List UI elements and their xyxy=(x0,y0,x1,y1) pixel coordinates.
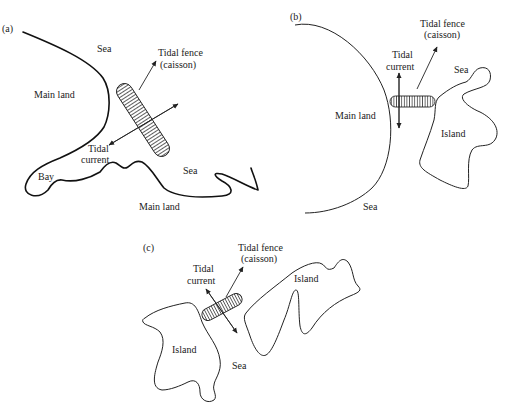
panel-a-fence-label-2: (caisson) xyxy=(160,59,196,71)
panel-b-fence-pointer-arrow xyxy=(417,47,437,89)
panel-c-caisson xyxy=(200,291,244,322)
panel-a: (a) Sea Main land Tidal fence (caisson) … xyxy=(2,23,258,212)
panel-a-sea-top: Sea xyxy=(97,43,112,54)
panel-a-current-label-2: current xyxy=(81,154,110,165)
panel-a-main-land-left: Main land xyxy=(34,89,75,100)
panel-c-sea: Sea xyxy=(232,360,247,371)
panel-b-sea-top: Sea xyxy=(454,64,469,75)
panel-a-bay: Bay xyxy=(38,171,54,182)
panel-c-fence-label-2: (caisson) xyxy=(241,253,277,265)
panel-c-island-right: Island xyxy=(294,273,318,284)
panel-b-fence-label-1: Tidal fence xyxy=(420,18,465,29)
panel-c-current-label-1: Tidal xyxy=(193,263,214,274)
panel-b-island: Island xyxy=(441,128,465,139)
panel-c-current-label-2: current xyxy=(187,275,216,286)
panel-b-main-land: Main land xyxy=(335,110,376,121)
panel-c-fence-label-1: Tidal fence xyxy=(238,242,283,253)
tidal-fence-diagram: (a) Sea Main land Tidal fence (caisson) … xyxy=(0,0,519,417)
panel-a-sea-right: Sea xyxy=(183,165,198,176)
panel-a-main-land-bottom: Main land xyxy=(139,201,180,212)
panel-b-fence-label-2: (caisson) xyxy=(424,29,460,41)
panel-b-caisson xyxy=(390,96,435,107)
panel-a-fence-label-1: Tidal fence xyxy=(158,47,203,58)
panel-b-current-label-1: Tidal xyxy=(392,49,413,60)
panel-a-tidal-fence xyxy=(113,80,172,159)
panel-b: (b) Tidal fence (caisson) Tidal current … xyxy=(290,11,497,213)
panel-a-tag-text: (a) xyxy=(2,23,13,35)
panel-b-tag: (b) xyxy=(290,11,302,23)
panel-a-current-label-1: Tidal xyxy=(88,143,109,154)
panel-c-tag: (c) xyxy=(143,242,154,254)
panel-c-tidal-fence xyxy=(200,291,244,322)
panel-b-sea-bottom: Sea xyxy=(363,201,378,212)
panel-b-current-label-2: current xyxy=(386,61,415,72)
panel-a-caisson xyxy=(113,80,172,159)
panel-c-island-left: Island xyxy=(172,344,196,355)
panel-c: (c) Tidal fence (caisson) Tidal current … xyxy=(143,242,360,402)
panel-c-fence-pointer-arrow xyxy=(226,267,243,297)
panel-a-fence-pointer-arrow xyxy=(139,61,156,90)
